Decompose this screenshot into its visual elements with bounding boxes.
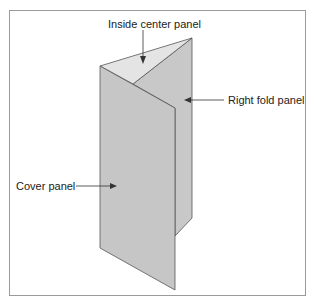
label-inside-center-panel: Inside center panel xyxy=(108,18,201,30)
label-cover-panel: Cover panel xyxy=(16,180,75,192)
brochure-illustration xyxy=(0,0,314,308)
arrow-cover xyxy=(76,183,117,189)
arrow-right-fold xyxy=(184,97,224,103)
label-right-fold-panel: Right fold panel xyxy=(228,94,304,106)
